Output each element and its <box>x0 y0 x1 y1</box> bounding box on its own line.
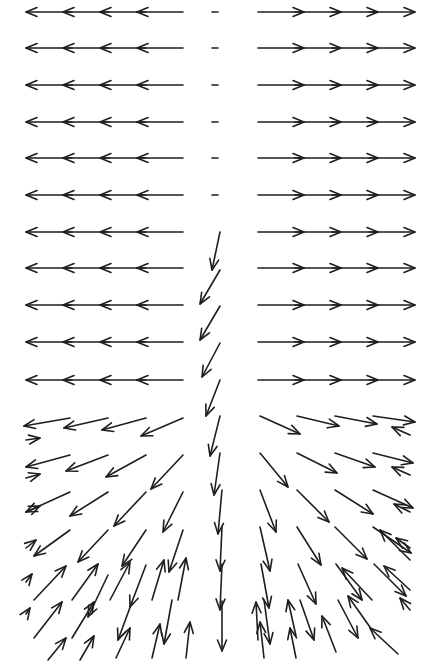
arrow <box>141 418 183 436</box>
arrow <box>110 562 130 600</box>
arrow <box>298 564 316 604</box>
arrow <box>297 527 321 565</box>
arrow <box>200 306 220 340</box>
arrowhead-icon <box>200 328 209 340</box>
arrow <box>151 455 183 489</box>
arrow <box>34 566 66 600</box>
arrow <box>130 565 146 607</box>
arrow <box>297 490 329 522</box>
arrow <box>335 453 375 467</box>
arrow <box>260 416 300 434</box>
arrow <box>260 490 276 532</box>
arrow <box>256 602 258 640</box>
arrow <box>202 343 220 377</box>
arrow <box>206 380 220 416</box>
arrow <box>336 564 362 600</box>
arrow <box>373 490 413 508</box>
arrow <box>72 564 98 600</box>
arrow <box>392 467 410 475</box>
arrow <box>370 628 398 654</box>
arrow <box>322 616 336 652</box>
arrowhead-icon <box>85 636 94 648</box>
arrow <box>152 560 164 600</box>
arrow <box>106 455 146 477</box>
arrow <box>114 492 146 526</box>
arrowhead-icon <box>200 292 209 304</box>
arrow <box>297 453 337 473</box>
arrow <box>342 568 372 600</box>
arrow <box>335 527 367 559</box>
arrow <box>122 530 146 566</box>
arrow-layer <box>20 8 415 661</box>
arrow <box>72 602 94 638</box>
arrowhead-icon <box>20 608 30 620</box>
arrow <box>163 492 183 532</box>
arrow <box>34 602 62 638</box>
arrow <box>260 453 288 487</box>
arrowhead-icon <box>361 504 373 514</box>
arrowhead-icon <box>70 506 82 516</box>
arrow <box>88 575 108 617</box>
arrow <box>34 530 70 556</box>
arrow <box>335 490 373 514</box>
arrow <box>78 530 108 562</box>
arrowhead-icon <box>311 553 321 565</box>
arrow <box>300 600 314 640</box>
arrow <box>70 492 108 516</box>
arrow <box>66 455 108 471</box>
arrow <box>392 427 410 435</box>
arrow <box>200 270 220 304</box>
vector-field-plot <box>0 0 437 672</box>
